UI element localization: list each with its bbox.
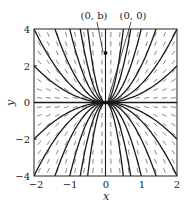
slope-dash (136, 78, 139, 82)
slope-dash (102, 87, 103, 92)
slope-dash (37, 123, 41, 126)
y-tick-label: −2 (15, 134, 30, 145)
slope-dash (93, 41, 94, 46)
slope-dash (74, 159, 75, 164)
slope-dash (55, 107, 60, 108)
slope-dash (162, 114, 167, 116)
slope-dash (47, 168, 49, 173)
slope-field-chart: 4 2 0 −2 −4 −2 −1 0 1 2 x y (0, b) (0, 0… (0, 0, 190, 210)
slope-dash (83, 141, 84, 146)
slope-dash (38, 141, 41, 145)
slope-dash (171, 114, 176, 116)
slope-dash (37, 98, 42, 99)
slope-dash (128, 150, 129, 155)
slope-dash (155, 41, 157, 46)
slope-dash (145, 141, 147, 145)
slope-dash (65, 150, 67, 155)
slope-dash (137, 168, 138, 173)
slope-dash (65, 159, 67, 164)
slope-dash (171, 89, 176, 91)
slope-dash (56, 41, 58, 46)
slope-dash (172, 141, 175, 145)
slope-dash (65, 168, 66, 173)
slope-dash (74, 131, 76, 135)
slope-dash (171, 79, 175, 82)
slope-dash (110, 113, 111, 118)
x-tick-label: 0 (103, 179, 109, 190)
slope-dash (93, 50, 94, 55)
slope-dash (46, 89, 51, 91)
slope-dash (65, 32, 66, 37)
slope-dash (84, 32, 85, 37)
slope-dash (74, 69, 76, 73)
slope-dash (163, 32, 165, 37)
slope-dash (56, 51, 58, 55)
slope-dash (155, 159, 157, 164)
slope-dash (74, 141, 76, 146)
y-tick-label: 0 (24, 97, 30, 108)
annotation-0-0: (0, 0) (120, 10, 147, 21)
slope-dash (65, 132, 68, 136)
slope-dash (47, 132, 50, 136)
slope-dash (163, 41, 165, 45)
slope-dash (93, 150, 94, 155)
slope-dash (47, 60, 50, 64)
slope-dash (84, 168, 85, 173)
slope-dash (154, 150, 156, 154)
slope-dash (172, 51, 175, 55)
slope-dash (136, 123, 139, 127)
y-tick-label: 2 (24, 61, 30, 72)
slope-dash (56, 159, 58, 164)
slope-dash (56, 60, 59, 64)
slope-dash (74, 60, 76, 65)
slope-dash (102, 113, 103, 118)
x-axis-ticks: −2 −1 0 1 2 (29, 179, 181, 190)
slope-dash (65, 51, 67, 56)
slope-dash (154, 60, 157, 64)
slope-dash (153, 107, 158, 108)
slope-dash (154, 123, 158, 126)
slope-dash (145, 132, 148, 136)
slope-dash (163, 132, 166, 136)
slope-dash (137, 32, 138, 37)
slope-dash (172, 150, 175, 154)
slope-dash (47, 141, 50, 145)
slope-dash (38, 60, 41, 64)
slope-dash (47, 69, 50, 73)
slope-dash (128, 78, 130, 82)
slope-dash (154, 132, 157, 136)
slope-dash (47, 41, 49, 45)
slope-dash (154, 51, 156, 55)
slope-dash (65, 41, 67, 46)
slope-dash (144, 107, 149, 108)
slope-dash (137, 60, 139, 65)
slope-dash (55, 88, 59, 90)
slope-dash (128, 50, 129, 55)
slope-dash (146, 159, 148, 164)
slope-dash (135, 106, 140, 107)
slope-dash (46, 98, 51, 99)
slope-dash (162, 107, 167, 108)
slope-dash (37, 89, 42, 91)
slope-dash (153, 114, 157, 116)
slope-dash (83, 60, 84, 65)
slope-dash (163, 60, 166, 64)
slope-dash (55, 114, 59, 116)
slope-dash (144, 97, 149, 98)
slope-dash (111, 78, 112, 83)
slope-dash (73, 97, 78, 98)
slope-dash (38, 168, 40, 172)
slope-dash (137, 51, 139, 56)
slope-dash (37, 107, 42, 108)
slope-dash (75, 32, 76, 37)
slope-dash (38, 150, 41, 154)
slope-dash (128, 122, 130, 126)
slope-dash (137, 141, 139, 146)
slope-dash (163, 159, 165, 163)
x-tick-label: −2 (29, 179, 44, 190)
slope-dash (93, 159, 94, 164)
slope-dash (145, 60, 147, 64)
slope-dash (111, 122, 112, 127)
slope-dash (74, 41, 75, 46)
slope-dash (119, 69, 120, 74)
